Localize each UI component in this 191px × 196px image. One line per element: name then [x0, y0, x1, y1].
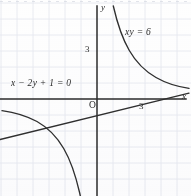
grid-lines: [0, 0, 191, 196]
origin-label: O: [89, 101, 96, 111]
hyperbola-branch-quadrant-3: [2, 111, 80, 196]
graph-canvas: [0, 0, 191, 196]
y-axis-tick-label-3: 3: [85, 45, 90, 54]
graph-figure: y x O 3 3 xy = 6 x − 2y + 1 = 0: [0, 0, 191, 196]
x-axis-label: x: [182, 92, 186, 101]
y-axis-label: y: [101, 3, 105, 12]
line-equation-label: x − 2y + 1 = 0: [11, 79, 71, 89]
hyperbola-equation-label: xy = 6: [125, 28, 151, 38]
x-axis-tick-label-3: 3: [139, 102, 144, 111]
hyperbola-branch-quadrant-1: [113, 6, 189, 88]
